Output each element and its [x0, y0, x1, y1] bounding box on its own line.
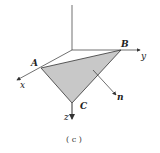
- label-c: C: [80, 101, 88, 111]
- normal-vector-n: [93, 70, 116, 95]
- label-y: y: [140, 51, 147, 61]
- triangle-abc: [41, 50, 121, 103]
- tetrahedron-diagram: A B C x y z n ( c ): [0, 0, 160, 153]
- label-a: A: [30, 58, 38, 68]
- label-n: n: [117, 92, 124, 102]
- label-x: x: [20, 80, 25, 90]
- label-b: B: [120, 39, 129, 49]
- figure-caption: ( c ): [66, 135, 82, 144]
- label-z: z: [63, 112, 69, 122]
